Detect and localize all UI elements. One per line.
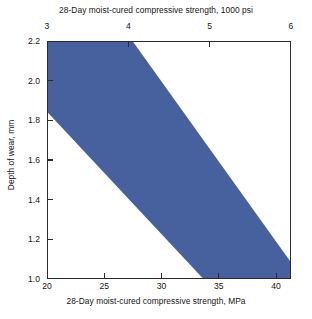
y-tick-label-1.4: 1.4	[28, 195, 40, 205]
y-tick-label-2: 2.0	[28, 76, 40, 86]
y-tick-1.2	[47, 239, 53, 240]
x-tick-label-20: 20	[42, 281, 52, 291]
top-tick-label-6: 6	[289, 21, 294, 31]
x-tick-label-25: 25	[99, 281, 109, 291]
y-tick-1.4	[47, 199, 53, 200]
y-tick-label-1.6: 1.6	[28, 155, 40, 165]
wear-band-shape	[48, 42, 290, 278]
top-tick-5	[209, 41, 210, 47]
x-tick-35	[218, 273, 219, 279]
plot-area	[47, 41, 291, 279]
x-tick-label-30: 30	[157, 281, 167, 291]
x-tick-label-40: 40	[271, 281, 281, 291]
top-tick-label-4: 4	[126, 21, 131, 31]
top-tick-label-3: 3	[45, 21, 50, 31]
x-tick-30	[161, 273, 162, 279]
top-axis-title: 28-Day moist-cured compressive strength,…	[0, 5, 312, 15]
x-tick-40	[276, 273, 277, 279]
x-axis-title: 28-Day moist-cured compressive strength,…	[0, 296, 312, 306]
y-tick-1.8	[47, 120, 53, 121]
x-tick-label-35: 35	[214, 281, 224, 291]
top-tick-4	[128, 41, 129, 47]
y-tick-label-1.2: 1.2	[28, 234, 40, 244]
y-axis-title: Depth of wear, mm	[6, 95, 16, 215]
y-tick-label-1.8: 1.8	[28, 115, 40, 125]
y-tick-label-1: 1.0	[28, 274, 40, 284]
y-tick-label-2.2: 2.2	[28, 36, 40, 46]
chart-figure: 28-Day moist-cured compressive strength,…	[0, 0, 312, 319]
x-tick-25	[104, 273, 105, 279]
top-tick-label-5: 5	[207, 21, 212, 31]
y-tick-2	[47, 80, 53, 81]
y-tick-1.6	[47, 159, 53, 160]
